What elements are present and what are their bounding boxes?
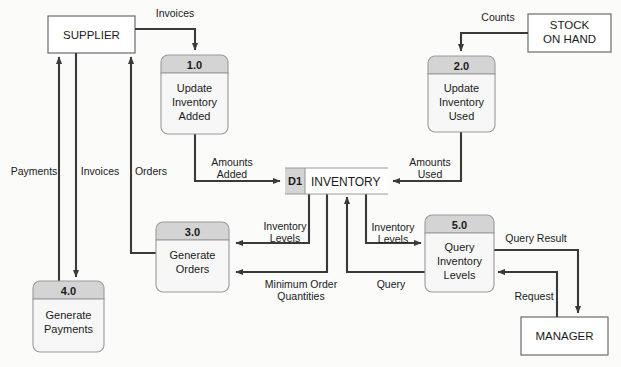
process-1-number: 1.0 — [187, 59, 202, 71]
process-1-line3: Added — [179, 110, 211, 122]
flow-label-invoices-left: Invoices — [81, 165, 120, 177]
process-5-line1: Query — [445, 241, 475, 253]
flow-label-query-result: Query Result — [505, 232, 566, 244]
data-store-d1-identifier: D1 — [288, 175, 302, 187]
process-5-line3: Levels — [444, 269, 476, 281]
data-store-d1-name: INVENTORY — [311, 175, 381, 189]
process-4-number: 4.0 — [61, 285, 76, 297]
flow-invoices-supplier-to-process-1: Invoices — [135, 7, 195, 50]
flow-label-amounts-used-line1: Amounts — [409, 156, 450, 168]
process-5-number: 5.0 — [452, 219, 467, 231]
dfd-canvas: SUPPLIER STOCK ON HAND MANAGER Invoices … — [0, 0, 621, 367]
flow-label-amounts-used-line2: Used — [418, 168, 443, 180]
external-entity-manager-label: MANAGER — [535, 330, 593, 342]
external-entity-manager[interactable]: MANAGER — [521, 317, 608, 355]
flow-line — [494, 250, 578, 313]
flow-request: Request — [498, 272, 557, 317]
flow-label-inventory-levels-3-line2: Levels — [270, 232, 300, 244]
process-2-update-inventory-used[interactable]: 2.0 Update Inventory Used — [428, 56, 495, 132]
dataflow-diagram: SUPPLIER STOCK ON HAND MANAGER Invoices … — [0, 0, 621, 367]
data-store-d1-inventory[interactable]: D1 INVENTORY — [285, 168, 388, 194]
process-4-line1: Generate — [46, 309, 92, 321]
process-1-update-inventory-added[interactable]: 1.0 Update Inventory Added — [161, 55, 228, 134]
flow-label-amounts-added-line1: Amounts — [211, 156, 252, 168]
process-4-line2: Payments — [44, 323, 93, 335]
flow-label-query: Query — [377, 278, 406, 290]
process-3-number: 3.0 — [185, 226, 200, 238]
flow-inventory-levels-to-process-5: Inventory Levels — [366, 193, 421, 245]
flow-label-inventory-levels-5-line2: Levels — [378, 233, 408, 245]
process-2-number: 2.0 — [454, 60, 469, 72]
process-1-line1: Update — [177, 82, 212, 94]
flow-label-minimum-order-line1: Minimum Order — [265, 278, 338, 290]
flow-label-payments: Payments — [11, 165, 58, 177]
external-entity-supplier-label: SUPPLIER — [63, 29, 120, 41]
flow-label-orders: Orders — [135, 165, 167, 177]
flow-inventory-levels-to-process-3: Inventory Levels — [236, 193, 309, 244]
process-5-line2: Inventory — [437, 255, 483, 267]
flow-amounts-added: Amounts Added — [195, 134, 280, 181]
flow-counts: Counts — [461, 11, 528, 51]
flow-invoices-supplier-to-process-4: Invoices — [76, 53, 119, 277]
flow-label-invoices-top: Invoices — [156, 7, 195, 19]
flow-line — [461, 33, 528, 51]
flow-amounts-used: Amounts Used — [393, 131, 461, 181]
flow-line — [135, 29, 195, 50]
flow-label-inventory-levels-5-line1: Inventory — [371, 221, 415, 233]
external-entity-stock-on-hand[interactable]: STOCK ON HAND — [528, 14, 611, 52]
process-3-line2: Orders — [176, 263, 210, 275]
flow-minimum-order-quantities: Minimum Order Quantities — [236, 193, 338, 302]
process-2-line2: Inventory — [439, 96, 485, 108]
process-3-generate-orders[interactable]: 3.0 Generate Orders — [156, 222, 229, 292]
flow-line — [131, 57, 156, 253]
flow-label-counts: Counts — [481, 11, 514, 23]
process-2-line3: Used — [449, 110, 475, 122]
external-entity-stock-on-hand-label-line1: STOCK — [550, 19, 590, 31]
flow-label-request: Request — [514, 290, 553, 302]
flow-payments: Payments — [11, 57, 59, 300]
external-entity-stock-on-hand-label-line2: ON HAND — [543, 33, 596, 45]
process-2-line1: Update — [444, 82, 479, 94]
flow-label-amounts-added-line2: Added — [217, 168, 248, 180]
process-3-line1: Generate — [170, 249, 216, 261]
external-entity-supplier[interactable]: SUPPLIER — [48, 16, 135, 53]
process-5-query-inventory-levels[interactable]: 5.0 Query Inventory Levels — [425, 215, 494, 292]
flow-label-inventory-levels-3-line1: Inventory — [263, 220, 307, 232]
process-4-generate-payments[interactable]: 4.0 Generate Payments — [33, 281, 104, 352]
flow-label-minimum-order-line2: Quantities — [277, 290, 324, 302]
process-1-line2: Inventory — [172, 96, 218, 108]
